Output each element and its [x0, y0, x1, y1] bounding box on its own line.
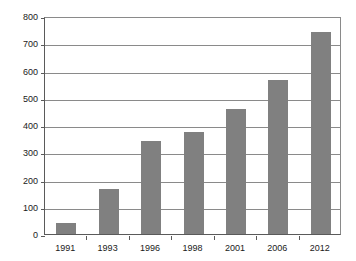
x-axis-label: 2012 [299, 243, 341, 253]
y-axis-label: 300 [4, 149, 38, 158]
gridline-y [45, 100, 340, 101]
x-axis-label: 2001 [214, 243, 256, 253]
x-axis-tick [171, 236, 172, 240]
y-axis-tick [41, 100, 45, 101]
gridline-y [45, 45, 340, 46]
bar [56, 223, 76, 234]
gridline-y [45, 127, 340, 128]
y-axis-label: 700 [4, 40, 38, 49]
bar [226, 109, 246, 234]
y-axis-label: 400 [4, 122, 38, 131]
y-axis-label: 600 [4, 68, 38, 77]
y-axis-tick [41, 154, 45, 155]
y-axis-label: 0 [4, 231, 38, 240]
y-axis-tick [41, 45, 45, 46]
bar [268, 80, 288, 234]
x-axis-tick [256, 236, 257, 240]
y-axis-tick [41, 182, 45, 183]
y-axis-tick [41, 127, 45, 128]
bar [99, 189, 119, 234]
x-axis-label: 2006 [256, 243, 298, 253]
bar [311, 32, 331, 234]
y-axis-label: 500 [4, 95, 38, 104]
x-axis-label: 1993 [86, 243, 128, 253]
x-axis-label: 1998 [171, 243, 213, 253]
y-axis-tick [41, 18, 45, 19]
x-axis-tick [129, 236, 130, 240]
y-axis-tick [41, 236, 45, 237]
bar [141, 141, 161, 234]
y-axis-label: 100 [4, 204, 38, 213]
plot-area [44, 17, 341, 235]
x-axis-label: 1991 [44, 243, 86, 253]
x-axis-tick [214, 236, 215, 240]
y-axis-label: 800 [4, 13, 38, 22]
x-axis-tick [299, 236, 300, 240]
bar [184, 132, 204, 234]
y-axis-label: 200 [4, 177, 38, 186]
y-axis-tick [41, 73, 45, 74]
y-axis-tick [41, 209, 45, 210]
x-axis-label: 1996 [129, 243, 171, 253]
gridline-y [45, 73, 340, 74]
x-axis-tick [86, 236, 87, 240]
bar-chart: 0100200300400500600700800199119931996199… [0, 0, 356, 261]
